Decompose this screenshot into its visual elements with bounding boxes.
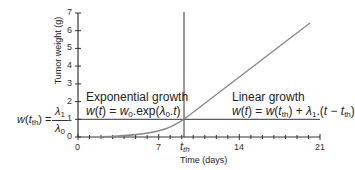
x-tick: 7 (156, 143, 161, 152)
exponential-curve (100, 119, 184, 137)
y-tick: 6 (67, 26, 72, 35)
y-axis-label: Tumor weight (g) (54, 1, 63, 101)
tth-label: tth (180, 141, 190, 154)
threshold-formula: w(tth) = (17, 114, 52, 127)
lambda-fraction: λ1 λ0 (52, 105, 68, 136)
y-tick: 4 (67, 61, 72, 70)
x-axis-label: Time (days) (180, 156, 227, 165)
y-tick: 5 (67, 43, 72, 52)
linear-title: Linear growth (232, 91, 305, 103)
linear-formula: w(t) = w(tth) + λ1.(t − tth) (232, 105, 355, 119)
y-tick: 7 (67, 8, 72, 17)
y-tick: 3 (67, 79, 72, 88)
x-tick: 21 (315, 143, 325, 152)
exponential-title: Exponential growth (86, 91, 188, 103)
x-tick: 0 (75, 143, 80, 152)
x-tick: 14 (234, 143, 244, 152)
exponential-formula: w(t) = w0.exp(λ0.t) (86, 105, 181, 119)
